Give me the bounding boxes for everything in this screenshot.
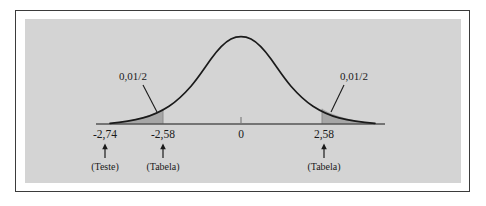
normal-density-curve bbox=[110, 37, 375, 124]
source-label-teste: (Teste) bbox=[91, 161, 119, 173]
right-area-leader-line bbox=[331, 85, 344, 112]
tick-label-right-critical: 2,58 bbox=[314, 128, 334, 141]
test-statistic-arrow bbox=[102, 144, 108, 159]
left-critical-value-arrow bbox=[160, 144, 166, 159]
right-rejection-region-shade bbox=[322, 109, 375, 124]
source-label-tabela-left: (Tabela) bbox=[146, 161, 179, 173]
left-area-label: 0,01/2 bbox=[119, 70, 147, 82]
tick-label-zero: 0 bbox=[238, 128, 244, 140]
right-area-label: 0,01/2 bbox=[340, 70, 368, 82]
tick-label-left-critical: -2,58 bbox=[151, 128, 175, 141]
source-label-tabela-right: (Tabela) bbox=[307, 161, 340, 173]
right-critical-value-arrow bbox=[321, 144, 327, 159]
tick-label-test-statistic: -2,74 bbox=[93, 128, 117, 141]
plot-surface: 0,01/2 0,01/2 -2,74 -2,58 0 2,58 (Teste)… bbox=[0, 0, 486, 206]
left-area-leader-line bbox=[143, 85, 157, 112]
normal-distribution-figure: 0,01/2 0,01/2 -2,74 -2,58 0 2,58 (Teste)… bbox=[0, 0, 486, 206]
